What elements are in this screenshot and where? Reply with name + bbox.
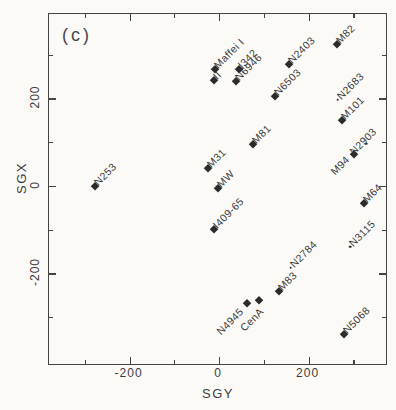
data-point-label: N2784 xyxy=(288,238,318,268)
data-point-marker xyxy=(336,98,339,101)
data-point-label: M81 xyxy=(250,122,272,144)
data-point-label: N3115 xyxy=(347,218,377,248)
y-tick xyxy=(379,273,386,274)
y-tick xyxy=(49,55,53,56)
data-point-label: N2403 xyxy=(286,35,316,65)
y-tick xyxy=(49,142,53,143)
x-tick xyxy=(219,14,220,21)
x-tick xyxy=(264,360,265,364)
data-point-marker xyxy=(255,296,263,304)
y-tick xyxy=(382,317,386,318)
x-tick xyxy=(85,360,86,364)
y-tick xyxy=(382,55,386,56)
x-axis-title: SGY xyxy=(202,386,234,401)
y-tick xyxy=(382,230,386,231)
x-tick xyxy=(85,14,86,18)
x-tick xyxy=(174,360,175,364)
y-tick xyxy=(382,142,386,143)
y-tick xyxy=(49,273,56,274)
data-point-label: N5068 xyxy=(341,305,371,335)
x-tick xyxy=(309,14,310,21)
scatter-figure: (c) N253Maffei IIII342N6946N6503N2403M82… xyxy=(0,0,396,410)
y-tick-label: 0 xyxy=(28,181,42,189)
x-tick xyxy=(353,360,354,364)
x-tick xyxy=(130,14,131,21)
data-point-label: M94 xyxy=(329,154,351,176)
data-point-label: I409-65 xyxy=(211,196,245,230)
x-tick-label: 200 xyxy=(296,366,319,380)
x-tick xyxy=(130,357,131,364)
y-tick-label: -200 xyxy=(28,258,42,286)
x-tick xyxy=(174,14,175,18)
panel-label: (c) xyxy=(62,25,92,46)
x-tick xyxy=(353,14,354,18)
x-tick xyxy=(309,357,310,364)
y-tick xyxy=(49,230,53,231)
data-point-label: M82 xyxy=(334,23,356,45)
data-point-label: N253 xyxy=(92,161,118,187)
plot-area: (c) N253Maffei IIII342N6946N6503N2403M82… xyxy=(48,13,387,365)
data-point-label: M83 xyxy=(276,270,298,292)
y-tick xyxy=(49,317,53,318)
y-tick-label: 200 xyxy=(28,86,42,109)
y-tick xyxy=(49,186,56,187)
x-tick xyxy=(264,14,265,18)
y-tick xyxy=(49,98,56,99)
x-tick xyxy=(219,357,220,364)
data-point-label: M31 xyxy=(205,147,227,169)
x-tick-label: -200 xyxy=(115,366,143,380)
data-point-label: N6503 xyxy=(272,67,302,97)
y-axis-title: SGX xyxy=(14,162,29,194)
y-tick xyxy=(379,98,386,99)
data-point-marker xyxy=(243,299,251,307)
x-tick-label: 0 xyxy=(214,366,222,380)
